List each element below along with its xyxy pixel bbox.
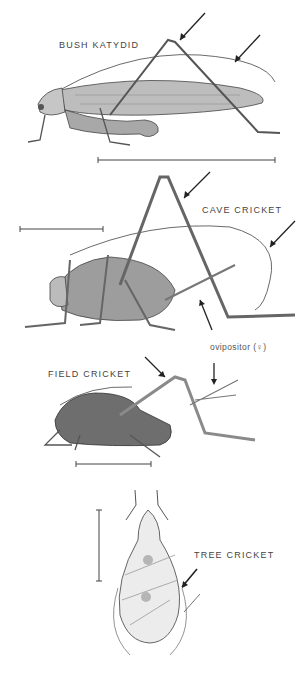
figure-field-cricket: FIELD CRICKET ovipositor (♀): [0, 335, 308, 480]
cave-cricket-illustration: [0, 165, 308, 335]
tree-cricket-illustration: [0, 480, 308, 690]
field-cricket-illustration: [0, 335, 308, 480]
bush-katydid-illustration: [0, 0, 308, 165]
figure-tree-cricket: TREE CRICKET: [0, 480, 308, 690]
figure-cave-cricket: CAVE CRICKET: [0, 165, 308, 335]
figure-bush-katydid: BUSH KATYDID: [0, 0, 308, 165]
